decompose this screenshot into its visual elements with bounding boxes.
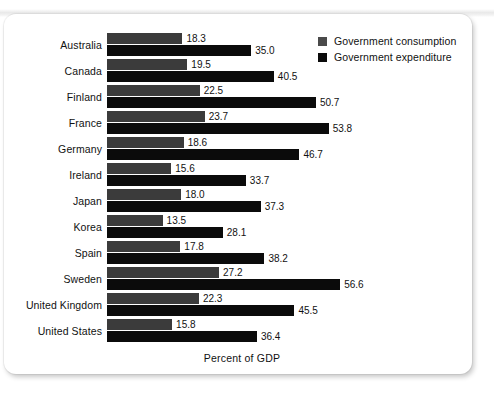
bar-pair: 15.633.7 — [107, 162, 467, 188]
category-label: Korea — [0, 218, 102, 236]
bar-consumption — [107, 85, 200, 96]
category-label: Australia — [0, 36, 102, 54]
category-label: Finland — [0, 88, 102, 106]
bar-pair: 22.550.7 — [107, 84, 467, 110]
bar-consumption — [107, 293, 199, 304]
bar-value-label: 15.6 — [175, 163, 194, 174]
chart-card: Australia18.335.0Canada19.540.5Finland22… — [4, 14, 472, 374]
bar-expenditure — [107, 45, 251, 56]
bar-value-label: 40.5 — [278, 71, 297, 82]
bar-value-label: 38.2 — [268, 253, 287, 264]
bar-value-label: 18.6 — [188, 137, 207, 148]
bar-group: United States15.836.4 — [4, 318, 472, 344]
legend-item: Government consumption — [318, 34, 456, 48]
bar-value-label: 56.6 — [344, 279, 363, 290]
bar-value-label: 22.3 — [203, 293, 222, 304]
bar-expenditure — [107, 175, 246, 186]
bar-group: Germany18.646.7 — [4, 136, 472, 162]
bar-expenditure — [107, 71, 274, 82]
bar-expenditure — [107, 97, 316, 108]
category-label: Canada — [0, 62, 102, 80]
bar-pair: 23.753.8 — [107, 110, 467, 136]
bar-pair: 17.838.2 — [107, 240, 467, 266]
bar-consumption — [107, 111, 205, 122]
bar-expenditure — [107, 279, 340, 290]
legend-swatch-icon — [318, 37, 327, 46]
bar-value-label: 35.0 — [255, 45, 274, 56]
category-label: Spain — [0, 244, 102, 262]
chart-legend: Government consumptionGovernment expendi… — [318, 34, 456, 66]
bar-value-label: 18.3 — [186, 33, 205, 44]
category-label: Germany — [0, 140, 102, 158]
bar-group: Ireland15.633.7 — [4, 162, 472, 188]
bar-value-label: 45.5 — [298, 305, 317, 316]
bar-value-label: 13.5 — [167, 215, 186, 226]
bar-group: Spain17.838.2 — [4, 240, 472, 266]
bar-value-label: 22.5 — [204, 85, 223, 96]
legend-item: Government expenditure — [318, 50, 456, 64]
legend-swatch-icon — [318, 53, 327, 62]
bar-consumption — [107, 163, 171, 174]
bar-pair: 27.256.6 — [107, 266, 467, 292]
bar-pair: 18.646.7 — [107, 136, 467, 162]
bar-group: Finland22.550.7 — [4, 84, 472, 110]
bar-group: Japan18.037.3 — [4, 188, 472, 214]
bar-value-label: 33.7 — [250, 175, 269, 186]
bar-consumption — [107, 267, 219, 278]
bar-value-label: 18.0 — [185, 189, 204, 200]
category-label: France — [0, 114, 102, 132]
bar-consumption — [107, 137, 184, 148]
bar-consumption — [107, 241, 180, 252]
x-axis-title: Percent of GDP — [107, 352, 377, 364]
legend-label: Government consumption — [334, 35, 456, 47]
bar-group: Korea13.528.1 — [4, 214, 472, 240]
bar-pair: 18.037.3 — [107, 188, 467, 214]
bar-value-label: 53.8 — [333, 123, 352, 134]
bar-consumption — [107, 215, 163, 226]
bar-value-label: 50.7 — [320, 97, 339, 108]
bar-expenditure — [107, 253, 264, 264]
chart-plot-area: Australia18.335.0Canada19.540.5Finland22… — [4, 14, 472, 374]
bar-expenditure — [107, 305, 294, 316]
bar-expenditure — [107, 227, 223, 238]
category-label: Ireland — [0, 166, 102, 184]
bar-value-label: 23.7 — [209, 111, 228, 122]
bar-group: Sweden27.256.6 — [4, 266, 472, 292]
category-label: Sweden — [0, 270, 102, 288]
bar-value-label: 19.5 — [191, 59, 210, 70]
bar-value-label: 15.8 — [176, 319, 195, 330]
bar-expenditure — [107, 123, 329, 134]
bar-value-label: 46.7 — [303, 149, 322, 160]
bar-value-label: 27.2 — [223, 267, 242, 278]
category-label: United States — [0, 322, 102, 340]
bar-expenditure — [107, 331, 257, 342]
bar-consumption — [107, 33, 182, 44]
bar-value-label: 17.8 — [184, 241, 203, 252]
category-label: Japan — [0, 192, 102, 210]
bar-consumption — [107, 319, 172, 330]
bar-expenditure — [107, 201, 261, 212]
bar-value-label: 37.3 — [265, 201, 284, 212]
bar-pair: 13.528.1 — [107, 214, 467, 240]
bar-consumption — [107, 59, 187, 70]
bar-pair: 22.345.5 — [107, 292, 467, 318]
bar-value-label: 36.4 — [261, 331, 280, 342]
category-label: United Kingdom — [0, 296, 102, 314]
bar-consumption — [107, 189, 181, 200]
bar-pair: 15.836.4 — [107, 318, 467, 344]
bar-expenditure — [107, 149, 299, 160]
bar-group: France23.753.8 — [4, 110, 472, 136]
legend-label: Government expenditure — [334, 51, 452, 63]
bar-group: United Kingdom22.345.5 — [4, 292, 472, 318]
bar-value-label: 28.1 — [227, 227, 246, 238]
